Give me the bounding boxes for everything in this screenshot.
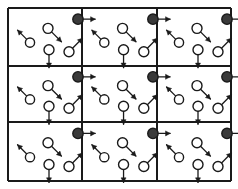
spin-circle-open xyxy=(25,153,34,162)
spin-spin-up-left-cell-4 xyxy=(92,87,109,104)
spin-circle-open xyxy=(193,101,203,111)
spin-arrow-head xyxy=(166,131,171,136)
spin-spin-corner-right-cell-4 xyxy=(148,72,170,82)
spin-spin-up-left-cell-2 xyxy=(167,30,184,47)
spin-circle-open xyxy=(119,101,129,111)
spin-circle-open xyxy=(139,47,149,57)
spin-spin-up-left-cell-8 xyxy=(167,145,184,162)
spin-circle-filled xyxy=(73,14,83,24)
spin-spin-up-left-cell-7 xyxy=(92,145,109,162)
spin-circle-filled xyxy=(222,72,232,82)
spin-spin-down-cell-7 xyxy=(119,159,129,182)
spin-circle-open xyxy=(119,159,129,169)
spin-circle-open xyxy=(64,47,74,57)
spin-circle-filled xyxy=(73,72,83,82)
spin-spin-down-right-cell-5 xyxy=(192,81,210,99)
spin-circle-open xyxy=(25,38,34,47)
unit-cell-r1-c1 xyxy=(92,72,170,125)
spin-spin-down-cell-8 xyxy=(193,159,203,182)
spin-spin-up-right-cell-3 xyxy=(64,95,82,113)
spin-circle-open xyxy=(100,95,109,104)
spin-spin-down-right-cell-0 xyxy=(43,23,61,41)
spin-spin-up-left-cell-6 xyxy=(18,145,35,162)
spin-spin-up-left-cell-5 xyxy=(167,87,184,104)
spin-lattice-diagram xyxy=(0,0,238,189)
spin-circle-open xyxy=(43,138,53,148)
spin-circle-open xyxy=(213,162,223,172)
spin-circle-open xyxy=(192,138,202,148)
spin-circle-open xyxy=(64,162,74,172)
spin-spin-up-left-cell-0 xyxy=(18,30,35,47)
spin-spin-up-right-cell-8 xyxy=(213,153,231,171)
spin-spin-up-left-cell-1 xyxy=(92,30,109,47)
spin-spin-corner-right-cell-2 xyxy=(222,14,238,24)
spin-circle-open xyxy=(139,162,149,172)
spin-circle-filled xyxy=(148,14,158,24)
spin-circle-open xyxy=(44,101,54,111)
spin-spin-corner-right-cell-1 xyxy=(148,14,170,24)
spin-spin-down-cell-6 xyxy=(44,159,54,182)
spin-circle-open xyxy=(174,38,183,47)
spin-spin-down-right-cell-2 xyxy=(192,23,210,41)
spin-spin-corner-right-cell-3 xyxy=(73,72,95,82)
spin-circle-open xyxy=(100,153,109,162)
spin-circle-open xyxy=(192,81,202,91)
spin-circle-open xyxy=(64,103,74,113)
spin-circle-open xyxy=(44,159,54,169)
spin-arrow-head xyxy=(166,17,171,22)
unit-cell-r1-c0 xyxy=(18,72,96,125)
spin-spin-down-cell-1 xyxy=(119,45,129,68)
spin-spin-up-right-cell-5 xyxy=(213,95,231,113)
spin-circle-open xyxy=(213,47,223,57)
spin-arrow-head xyxy=(166,74,171,79)
spin-circle-open xyxy=(193,45,203,55)
spin-spin-corner-right-cell-8 xyxy=(222,128,238,138)
spin-spin-up-right-cell-6 xyxy=(64,153,82,171)
spin-circle-filled xyxy=(148,72,158,82)
spin-spin-down-right-cell-8 xyxy=(192,138,210,156)
unit-cell-r0-c0 xyxy=(18,14,96,68)
spin-arrow-head xyxy=(91,74,96,79)
spin-spin-down-cell-0 xyxy=(44,45,54,68)
spin-spin-down-right-cell-7 xyxy=(118,138,136,156)
spin-spin-down-right-cell-4 xyxy=(118,81,136,99)
spin-circle-open xyxy=(43,81,53,91)
spin-spin-up-left-cell-3 xyxy=(18,87,35,104)
spin-circle-open xyxy=(139,103,149,113)
spin-spin-up-right-cell-0 xyxy=(64,38,82,56)
unit-cell-r0-c1 xyxy=(92,14,170,68)
spin-spin-up-right-cell-4 xyxy=(139,95,157,113)
spin-spin-down-right-cell-1 xyxy=(118,23,136,41)
unit-cell-r2-c2 xyxy=(167,128,238,182)
spin-circle-open xyxy=(25,95,34,104)
spin-circle-open xyxy=(174,95,183,104)
spin-spin-up-right-cell-1 xyxy=(139,38,157,56)
unit-cell-r2-c1 xyxy=(92,128,170,182)
spin-arrow-head xyxy=(91,131,96,136)
spin-spin-corner-right-cell-0 xyxy=(73,14,95,24)
spin-spin-down-right-cell-6 xyxy=(43,138,61,156)
spin-circle-open xyxy=(118,138,128,148)
spin-circle-open xyxy=(118,23,128,33)
spin-circle-open xyxy=(119,45,129,55)
spin-circle-open xyxy=(100,38,109,47)
spin-spin-down-right-cell-3 xyxy=(43,81,61,99)
spin-circle-open xyxy=(44,45,54,55)
unit-cell-r2-c0 xyxy=(18,128,96,182)
spin-spin-up-right-cell-7 xyxy=(139,153,157,171)
spin-spin-corner-right-cell-7 xyxy=(148,128,170,138)
spin-spin-down-cell-3 xyxy=(44,101,54,124)
spin-spin-corner-right-cell-5 xyxy=(222,72,238,82)
spin-circle-open xyxy=(118,81,128,91)
spin-circle-open xyxy=(192,23,202,33)
lattice-svg-canvas xyxy=(0,0,238,189)
spin-spin-down-cell-4 xyxy=(119,101,129,124)
unit-cell-r0-c2 xyxy=(167,14,238,68)
spin-circle-open xyxy=(213,103,223,113)
spin-arrow-head xyxy=(91,17,96,22)
spin-circle-filled xyxy=(222,14,232,24)
spin-circle-filled xyxy=(222,128,232,138)
spin-spin-down-cell-5 xyxy=(193,101,203,124)
spin-spin-down-cell-2 xyxy=(193,45,203,68)
unit-cell-r1-c2 xyxy=(167,72,238,125)
